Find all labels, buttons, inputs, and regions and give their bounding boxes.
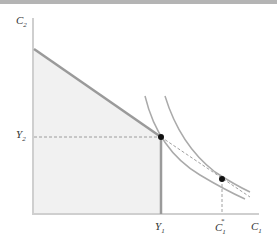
c1star-tick-label: C1*: [215, 220, 229, 236]
y-axis-label: C2: [16, 14, 27, 29]
shaded-feasible-region: [34, 49, 161, 214]
x-axis-label: C1: [251, 220, 262, 235]
y1-tick-label: Y1: [155, 220, 165, 235]
budget-extension-dashed: [161, 137, 250, 197]
indifference-curve-higher: [165, 96, 250, 192]
optimal-point: [219, 176, 225, 182]
y2-tick-label: Y2: [16, 128, 26, 143]
diagram-canvas: [0, 0, 277, 243]
endowment-point: [158, 134, 164, 140]
